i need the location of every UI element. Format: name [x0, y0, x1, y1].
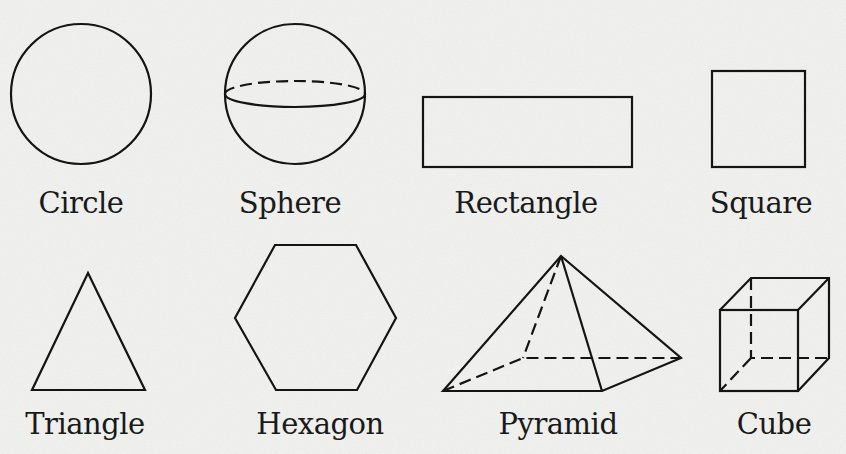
triangle-shape [32, 273, 145, 390]
label-rectangle: Rectangle [454, 189, 597, 218]
label-circle: Circle [38, 189, 123, 218]
pyramid-shape [443, 256, 681, 391]
cube-shape [720, 278, 829, 391]
rectangle-shape [423, 97, 632, 167]
hexagon-shape [235, 245, 396, 390]
label-sphere: Sphere [239, 189, 341, 218]
label-square: Square [710, 189, 812, 218]
label-cube: Cube [737, 410, 812, 439]
sphere-shape [225, 24, 365, 164]
label-hexagon: Hexagon [256, 410, 383, 439]
label-pyramid: Pyramid [499, 410, 618, 439]
label-triangle: Triangle [25, 410, 144, 439]
shapes-canvas [0, 0, 846, 454]
circle-shape [11, 24, 151, 164]
square-shape [712, 71, 805, 167]
